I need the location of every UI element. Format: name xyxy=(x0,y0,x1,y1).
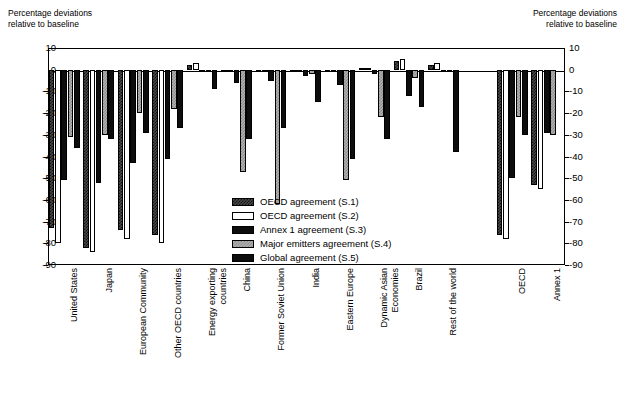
x-axis-label: Eastern Europe xyxy=(345,268,356,398)
y-tick-mark xyxy=(565,200,569,201)
bar xyxy=(522,70,528,135)
y-tick-mark xyxy=(565,91,569,92)
legend-item: Global agreement (S.5) xyxy=(232,251,391,264)
bar xyxy=(428,65,434,69)
bar xyxy=(137,70,143,113)
bar xyxy=(55,70,61,244)
bar xyxy=(83,70,89,248)
legend-item: Major emitters agreement (S.4) xyxy=(232,237,391,250)
bar xyxy=(152,70,158,235)
bar-group xyxy=(497,48,528,265)
bar xyxy=(212,70,218,90)
y-tick-label-right: -70 xyxy=(569,217,609,227)
bar xyxy=(372,70,378,74)
bar xyxy=(74,70,80,148)
bar xyxy=(516,70,522,118)
bar xyxy=(193,63,199,70)
y-tick-label-right: -30 xyxy=(569,130,609,140)
bar xyxy=(240,70,246,172)
bar xyxy=(159,70,165,244)
bar xyxy=(531,70,537,185)
y-tick-mark xyxy=(565,135,569,136)
legend-swatch xyxy=(232,198,254,206)
bar xyxy=(406,70,412,96)
bar-group xyxy=(428,48,459,265)
x-axis-label: Other OECD countries xyxy=(173,268,184,398)
bar xyxy=(384,70,390,139)
bar-group xyxy=(394,48,425,265)
bar xyxy=(394,61,400,70)
bar xyxy=(315,70,321,103)
bar xyxy=(256,70,262,72)
bar xyxy=(227,70,233,72)
x-axis-label: Rest of the world xyxy=(448,268,459,398)
x-axis-label: OECD xyxy=(517,268,528,398)
bar xyxy=(509,70,515,179)
legend-swatch xyxy=(232,226,254,234)
bar xyxy=(68,70,74,137)
y-tick-label-right: -90 xyxy=(569,260,609,270)
bar xyxy=(206,70,212,72)
bar xyxy=(544,70,550,133)
bar xyxy=(453,70,459,152)
bar xyxy=(290,70,296,72)
y-tick-label-right: 0 xyxy=(569,65,609,75)
legend-label: OECD agreement (S.1) xyxy=(260,197,359,207)
chart-legend: OECD agreement (S.1)OECD agreement (S.2)… xyxy=(232,195,391,265)
bar xyxy=(337,70,343,85)
bar xyxy=(550,70,556,135)
right-axis-caption: Percentage deviations relative to baseli… xyxy=(533,8,617,29)
bar xyxy=(447,70,453,72)
bar xyxy=(359,68,365,70)
y-tick-label-right: -10 xyxy=(569,86,609,96)
bar xyxy=(246,70,252,139)
bar xyxy=(130,70,136,163)
bar xyxy=(262,70,268,72)
bar xyxy=(275,70,281,205)
bar xyxy=(309,70,315,74)
y-tick-label-right: -40 xyxy=(569,152,609,162)
bar xyxy=(199,70,205,72)
legend-swatch xyxy=(232,240,254,248)
bar-group xyxy=(462,48,493,265)
y-tick-label-right: -20 xyxy=(569,108,609,118)
legend-label: OECD agreement (S.2) xyxy=(260,211,359,221)
bar-group xyxy=(187,48,218,265)
bar xyxy=(412,70,418,79)
bar xyxy=(296,70,302,72)
y-tick-label-right: 10 xyxy=(569,43,609,53)
bar xyxy=(171,70,177,109)
x-axis-label: China xyxy=(242,268,253,398)
left-axis-caption: Percentage deviations relative to baseli… xyxy=(8,8,92,29)
bar xyxy=(268,70,274,81)
y-tick-mark xyxy=(565,222,569,223)
legend-item: OECD agreement (S.2) xyxy=(232,209,391,222)
x-axis-label: European Community xyxy=(138,268,149,398)
legend-label: Major emitters agreement (S.4) xyxy=(260,239,391,249)
y-tick-mark xyxy=(565,178,569,179)
bar xyxy=(124,70,130,239)
bar xyxy=(350,70,356,159)
bar xyxy=(177,70,183,129)
bar-group xyxy=(152,48,183,265)
y-tick-mark xyxy=(44,265,48,266)
bar xyxy=(96,70,102,183)
x-axis-label: Energy exporting countries xyxy=(207,268,228,398)
bar xyxy=(538,70,544,189)
legend-item: Annex 1 agreement (S.3) xyxy=(232,223,391,236)
bar xyxy=(419,70,425,107)
legend-swatch xyxy=(232,212,254,220)
bar xyxy=(143,70,149,133)
x-axis-label: India xyxy=(311,268,322,398)
bar xyxy=(503,70,509,239)
bar-group xyxy=(118,48,149,265)
x-axis-label: United States xyxy=(69,268,80,398)
bar xyxy=(400,59,406,70)
bar xyxy=(118,70,124,231)
x-axis-label: Former Soviet Union xyxy=(276,268,287,398)
bar xyxy=(102,70,108,135)
y-tick-mark xyxy=(565,113,569,114)
bar-group xyxy=(83,48,114,265)
bar xyxy=(165,70,171,159)
y-tick-mark xyxy=(565,157,569,158)
